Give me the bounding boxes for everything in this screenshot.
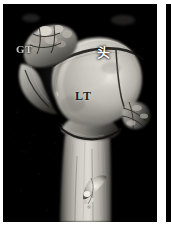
panel-gutter [157, 0, 166, 229]
ct-figure: . , . . . .. , . , . . . ,. . . , . . . … [0, 0, 171, 229]
ct-panel-adjacent[interactable] [166, 4, 171, 222]
bone-volume-render [3, 4, 157, 222]
ct-panel-main[interactable]: . , . . . .. , . , . . . ,. . . , . . . … [3, 4, 157, 222]
